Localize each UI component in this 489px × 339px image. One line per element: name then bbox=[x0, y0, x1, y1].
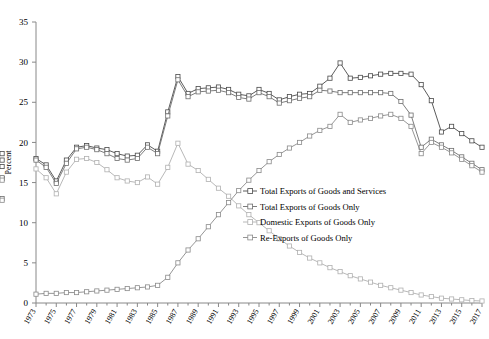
data-point-marker bbox=[308, 95, 312, 99]
data-point-marker bbox=[54, 291, 58, 295]
line-chart: 05101520253035Percent1973197519771979198… bbox=[0, 0, 489, 339]
data-point-marker bbox=[216, 213, 220, 217]
data-point-marker bbox=[389, 91, 393, 95]
data-point-marker bbox=[186, 162, 190, 166]
legend-label: Domestic Exports of Goods Only bbox=[260, 217, 376, 227]
data-point-marker bbox=[54, 181, 58, 185]
legend-label: Re-Exports of Goods Only bbox=[260, 233, 353, 243]
data-point-marker bbox=[480, 145, 484, 149]
data-point-marker bbox=[287, 244, 291, 248]
data-point-marker bbox=[318, 261, 322, 265]
x-axis-tick-label: 1989 bbox=[184, 308, 200, 326]
data-point-marker bbox=[247, 213, 251, 217]
legend-item-4: Re-Exports of Goods Only bbox=[243, 233, 353, 243]
data-point-marker bbox=[368, 280, 372, 284]
data-point-marker bbox=[429, 294, 433, 298]
y-axis-title: Percent bbox=[4, 150, 13, 175]
data-point-marker bbox=[439, 130, 443, 134]
data-point-marker bbox=[166, 275, 170, 279]
x-axis-tick-label: 1981 bbox=[103, 308, 119, 326]
data-point-marker bbox=[166, 114, 170, 118]
data-point-marker bbox=[287, 95, 291, 99]
legend-label: Total Exports of Goods and Services bbox=[260, 186, 387, 196]
data-point-marker bbox=[379, 114, 383, 118]
data-point-marker bbox=[95, 160, 99, 164]
data-point-marker bbox=[379, 72, 383, 76]
data-point-marker bbox=[287, 146, 291, 150]
data-point-marker bbox=[287, 99, 291, 103]
data-point-marker bbox=[115, 287, 119, 291]
data-point-marker bbox=[429, 99, 433, 103]
data-point-marker bbox=[156, 152, 160, 156]
data-point-marker bbox=[74, 147, 78, 151]
data-point-marker bbox=[277, 101, 281, 105]
data-point-marker bbox=[328, 89, 332, 93]
data-point-marker bbox=[460, 132, 464, 136]
y-axis-tick-label: 35 bbox=[19, 17, 29, 27]
data-point-marker bbox=[358, 75, 362, 79]
data-point-marker bbox=[419, 152, 423, 156]
data-point-marker bbox=[297, 92, 301, 96]
legend-marker bbox=[248, 220, 253, 225]
data-point-marker bbox=[470, 164, 474, 168]
data-point-marker bbox=[226, 194, 230, 198]
data-point-marker bbox=[34, 158, 38, 162]
series-4 bbox=[0, 112, 484, 296]
data-point-marker bbox=[297, 250, 301, 254]
data-point-marker bbox=[166, 165, 170, 169]
data-point-marker bbox=[277, 152, 281, 156]
data-point-marker bbox=[318, 88, 322, 92]
data-point-marker bbox=[449, 297, 453, 301]
y-axis-tick-label: 0 bbox=[24, 298, 29, 308]
data-point-marker bbox=[399, 116, 403, 120]
data-point-marker bbox=[308, 256, 312, 260]
data-point-marker bbox=[399, 71, 403, 75]
data-point-marker bbox=[115, 156, 119, 160]
data-point-marker bbox=[328, 76, 332, 80]
data-point-marker bbox=[247, 97, 251, 101]
data-point-marker bbox=[257, 91, 261, 95]
data-point-marker bbox=[176, 78, 180, 82]
data-point-marker bbox=[85, 156, 89, 160]
data-point-marker bbox=[328, 266, 332, 270]
data-point-marker bbox=[105, 168, 109, 172]
chart-container: 05101520253035Percent1973197519771979198… bbox=[0, 0, 489, 339]
series-line bbox=[36, 80, 482, 184]
data-point-marker bbox=[135, 286, 139, 290]
data-point-marker bbox=[54, 192, 58, 196]
y-axis-tick-label: 5 bbox=[24, 258, 29, 268]
data-point-marker bbox=[318, 128, 322, 132]
data-point-marker bbox=[74, 290, 78, 294]
data-point-marker bbox=[389, 71, 393, 75]
data-point-marker bbox=[439, 296, 443, 300]
data-point-marker bbox=[0, 178, 4, 182]
x-axis-tick-label: 2015 bbox=[448, 308, 464, 326]
data-point-marker bbox=[338, 270, 342, 274]
data-point-marker bbox=[460, 298, 464, 302]
data-point-marker bbox=[267, 160, 271, 164]
legend-item-1: Total Exports of Goods and Services bbox=[243, 186, 387, 196]
x-axis-tick-label: 2013 bbox=[427, 308, 443, 326]
x-axis-tick-label: 2003 bbox=[326, 308, 342, 326]
x-axis-tick-label: 2005 bbox=[346, 308, 362, 326]
series-line bbox=[36, 114, 482, 294]
data-point-marker bbox=[389, 286, 393, 290]
data-point-marker bbox=[237, 189, 241, 193]
data-point-marker bbox=[85, 145, 89, 149]
data-point-marker bbox=[206, 177, 210, 181]
data-point-marker bbox=[328, 124, 332, 128]
data-point-marker bbox=[409, 72, 413, 76]
data-point-marker bbox=[348, 120, 352, 124]
series-3 bbox=[34, 141, 484, 303]
data-point-marker bbox=[399, 288, 403, 292]
data-point-marker bbox=[44, 165, 48, 169]
data-point-marker bbox=[368, 91, 372, 95]
x-axis-tick-label: 2007 bbox=[367, 308, 383, 326]
data-point-marker bbox=[105, 148, 109, 152]
data-point-marker bbox=[318, 84, 322, 88]
x-axis-tick-label: 2017 bbox=[468, 308, 484, 326]
y-axis-tick-label: 30 bbox=[19, 57, 29, 67]
data-point-marker bbox=[480, 170, 484, 174]
data-point-marker bbox=[145, 175, 149, 179]
data-point-marker bbox=[368, 116, 372, 120]
